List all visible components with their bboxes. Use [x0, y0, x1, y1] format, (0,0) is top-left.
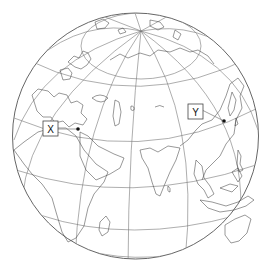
globe-map: X Y — [0, 0, 271, 279]
marker-dot-x — [76, 127, 80, 131]
label-x: X — [47, 124, 54, 135]
coast-australia — [225, 215, 251, 243]
marker-dot-y — [222, 119, 226, 123]
label-y: Y — [192, 107, 199, 118]
